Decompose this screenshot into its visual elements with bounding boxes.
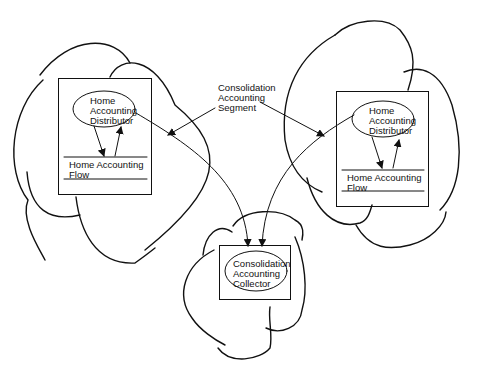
callout-arrow-left: [168, 108, 215, 135]
left-distributor-label: Home Accounting Distributor: [90, 96, 137, 126]
left-cloud: [14, 43, 210, 263]
left-segment-line: [136, 113, 248, 246]
collector-label: Consolidation Accounting Collector: [233, 259, 291, 289]
left-flow-label: Home Accounting Flow: [69, 160, 143, 180]
callout-label: Consolidation Accounting Segment: [218, 83, 276, 113]
right-flow-label: Home Accounting Flow: [347, 173, 421, 193]
right-distributor-label: Home Accounting Distributor: [369, 106, 416, 136]
